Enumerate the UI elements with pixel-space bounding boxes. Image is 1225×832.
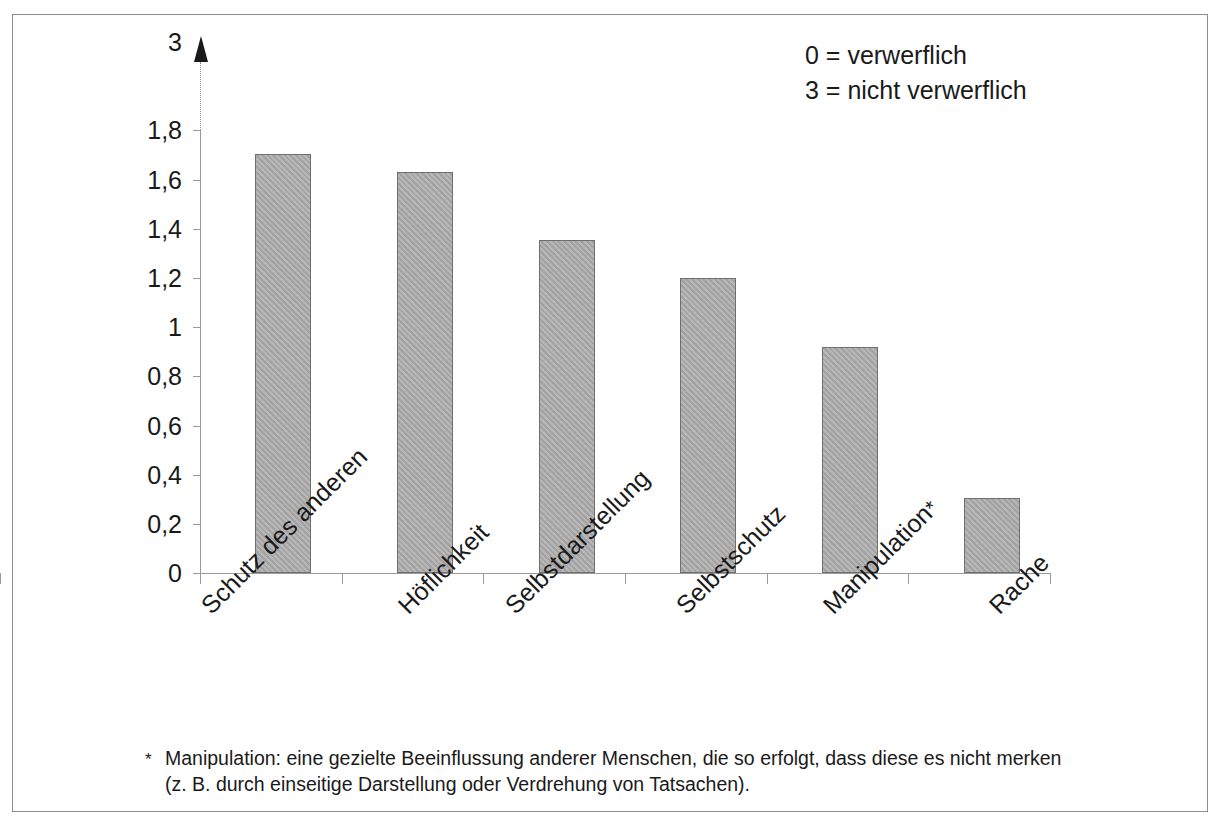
- x-tick-hidden: [0, 573, 1, 584]
- x-tick-0: [200, 573, 201, 584]
- y-tick-label-0-4: 0,4: [147, 463, 182, 488]
- y-tick-label-1: 1: [168, 315, 182, 340]
- y-tick-label-3: 3: [168, 30, 182, 55]
- x-tick-5: [908, 573, 909, 584]
- bar-manipulation[interactable]: [822, 347, 878, 573]
- bar-selbstschutz[interactable]: [680, 278, 736, 573]
- x-tick-2: [483, 573, 484, 584]
- bar-hoeflichkeit[interactable]: [397, 172, 453, 573]
- legend-line-0: 0 = verwerflich: [805, 38, 1027, 73]
- bar-rache[interactable]: [964, 498, 1020, 573]
- y-axis-line: [200, 130, 201, 574]
- scale-legend: 0 = verwerflich 3 = nicht verwerflich: [805, 38, 1027, 108]
- y-tick-5: [193, 327, 201, 328]
- y-tick-label-1-2: 1,2: [147, 266, 182, 291]
- y-tick-4: [193, 376, 201, 377]
- y-tick-label-0-2: 0,2: [147, 512, 182, 537]
- plot-area: 0 0,2 0,4 0,6 0,8 1 1,2 1,4 1,6 1,8 3: [0, 0, 1225, 832]
- y-tick-label-1-4: 1,4: [147, 217, 182, 242]
- footnote-marker-icon: *: [145, 747, 152, 773]
- x-tick-4: [767, 573, 768, 584]
- chart-page: 0 0,2 0,4 0,6 0,8 1 1,2 1,4 1,6 1,8 3: [0, 0, 1225, 832]
- y-tick-label-0-6: 0,6: [147, 414, 182, 439]
- footnote-text: Manipulation: eine gezielte Beeinflussun…: [145, 745, 1080, 797]
- y-tick-6: [193, 278, 201, 279]
- y-tick-1: [193, 524, 201, 525]
- y-tick-label-1-8: 1,8: [147, 118, 182, 143]
- x-tick-3: [625, 573, 626, 584]
- y-tick-label-0: 0: [168, 561, 182, 586]
- y-tick-7: [193, 229, 201, 230]
- y-tick-2: [193, 475, 201, 476]
- x-tick-6: [1050, 573, 1051, 584]
- footnote: * Manipulation: eine gezielte Beeinfluss…: [145, 745, 1080, 797]
- y-tick-3: [193, 426, 201, 427]
- y-tick-label-0-8: 0,8: [147, 364, 182, 389]
- y-tick-8: [193, 180, 201, 181]
- y-axis-break-dotted: [200, 62, 201, 130]
- y-tick-label-1-6: 1,6: [147, 168, 182, 193]
- y-tick-9: [193, 130, 201, 131]
- x-tick-1: [342, 573, 343, 584]
- legend-line-1: 3 = nicht verwerflich: [805, 73, 1027, 108]
- y-axis-arrow-icon: [194, 36, 208, 62]
